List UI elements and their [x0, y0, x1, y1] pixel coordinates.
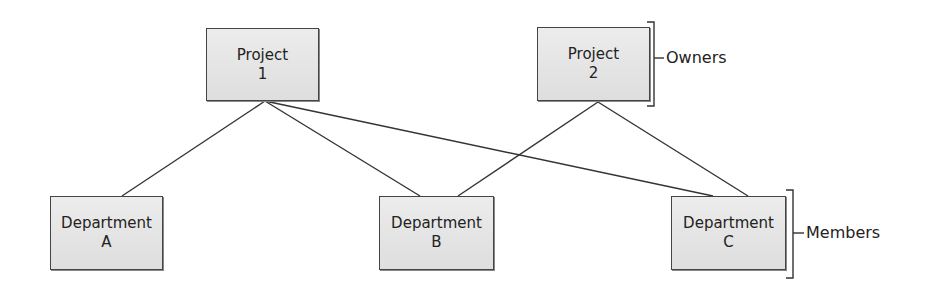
edge-p1-dA	[122, 101, 265, 196]
node-label-line2: A	[101, 233, 111, 252]
node-label-line2: B	[431, 233, 441, 252]
node-label-line2: 1	[258, 65, 268, 84]
owners-group-label: Owners	[666, 49, 727, 67]
node-department-a: Department A	[50, 196, 163, 270]
node-label-line1: Project	[568, 45, 619, 64]
node-project-2: Project 2	[537, 27, 650, 101]
node-department-b: Department B	[379, 196, 494, 270]
edge-p1-dC	[265, 101, 713, 196]
node-label-line1: Department	[683, 214, 774, 233]
edge-p2-dC	[598, 102, 748, 196]
diagram-canvas: Project 1 Project 2 Department A Departm…	[0, 0, 937, 306]
node-project-1: Project 1	[206, 28, 319, 101]
edge-p2-dB	[458, 102, 598, 196]
members-group-label: Members	[806, 224, 880, 242]
node-label-line2: C	[723, 233, 733, 252]
node-label-line1: Department	[61, 214, 152, 233]
edge-p1-dB	[265, 101, 420, 196]
node-label-line1: Department	[391, 214, 482, 233]
node-label-line2: 2	[589, 64, 599, 83]
node-department-c: Department C	[671, 196, 786, 270]
members-bracket	[786, 190, 793, 278]
node-label-line1: Project	[237, 46, 288, 65]
